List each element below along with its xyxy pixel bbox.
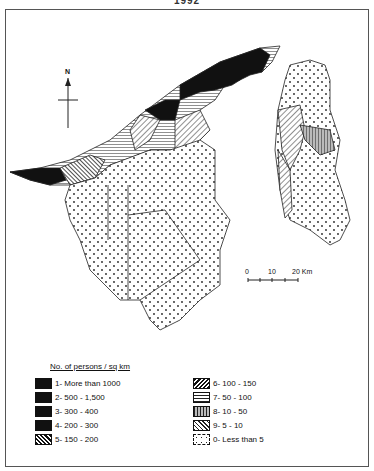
north-label: N bbox=[65, 68, 70, 75]
legend-item-2: 2- 500 - 1,500 bbox=[35, 391, 105, 403]
scale-label-0: 0 bbox=[245, 268, 249, 275]
legend-item-6: 6- 100 - 150 bbox=[193, 377, 256, 389]
swatch-back-diagonal bbox=[193, 378, 210, 389]
legend-item-3: 3- 300 - 400 bbox=[35, 405, 98, 417]
legend-item-1: 1- More than 1000 bbox=[35, 377, 120, 389]
swatch-dots bbox=[193, 434, 210, 445]
swatch-solid-black bbox=[35, 392, 52, 403]
legend-item-9: 9- 5 - 10 bbox=[193, 419, 243, 431]
legend-item-4: 4- 200 - 300 bbox=[35, 419, 98, 431]
scale-bar bbox=[248, 278, 298, 282]
north-arrow-icon bbox=[58, 78, 78, 128]
swatch-diagonal bbox=[193, 420, 210, 431]
swatch-solid-black bbox=[35, 378, 52, 389]
swatch-dense-diagonal bbox=[35, 434, 52, 445]
eastern-territory bbox=[275, 60, 350, 245]
swatch-horizontal-lines bbox=[193, 392, 210, 403]
swatch-solid-black bbox=[35, 406, 52, 417]
swatch-solid-black bbox=[35, 420, 52, 431]
legend-item-5: 5- 150 - 200 bbox=[35, 433, 98, 445]
scale-label-20: 20 Km bbox=[292, 268, 312, 275]
legend-item-0: 0- Less than 5 bbox=[193, 433, 264, 445]
scale-label-10: 10 bbox=[268, 268, 276, 275]
swatch-vertical-lines bbox=[193, 406, 210, 417]
western-territory bbox=[10, 46, 280, 330]
legend-item-8: 8- 10 - 50 bbox=[193, 405, 247, 417]
legend-title: No. of persons / sq km bbox=[50, 362, 130, 371]
legend-item-7: 7- 50 - 100 bbox=[193, 391, 252, 403]
